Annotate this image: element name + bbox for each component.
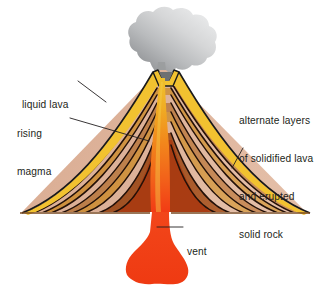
- label-rising-magma-line2: magma: [17, 166, 51, 179]
- label-vent-line1: vent: [187, 246, 207, 259]
- label-rising-magma: rising magma: [17, 103, 51, 204]
- label-alternate-line4: solid rock: [239, 229, 313, 242]
- magma-chamber-icon: [126, 212, 188, 284]
- label-alternate-line2: of solidified lava: [239, 153, 313, 166]
- leader-liquid-lava: [78, 81, 106, 102]
- label-rising-magma-line1: rising: [17, 128, 51, 141]
- volcano-diagram: liquid lava rising magma alternate layer…: [0, 0, 332, 294]
- label-vent: vent: [187, 221, 207, 284]
- label-alternate-line1: alternate layers: [239, 115, 313, 128]
- label-alternate-layers: alternate layers of solidified lava and …: [239, 90, 313, 266]
- label-alternate-line3: and erupted: [239, 191, 313, 204]
- smoke-plume-icon: [128, 7, 217, 80]
